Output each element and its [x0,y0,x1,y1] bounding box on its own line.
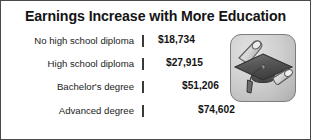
category-label: High school diploma [1,58,134,69]
graduation-cap-illustration [230,34,296,102]
category-label: Bachelor's degree [1,81,134,92]
bar-value-label: $51,206 [182,80,219,91]
bar-track [142,58,161,70]
chart-title: Earnings Increase with More Education [1,8,310,24]
bar-row: Advanced degree $74,602 [1,102,311,124]
bar-value-label: $27,915 [166,57,203,68]
category-label: Advanced degree [1,105,134,116]
bar-track [142,35,153,47]
bar [142,58,144,70]
graduation-cap-icon [230,34,296,102]
category-label: No high school diploma [1,35,134,46]
chart-figure: Earnings Increase with More Education No… [0,0,311,140]
bar-value-label: $74,602 [198,104,235,115]
bar [142,35,144,47]
bar-value-label: $18,734 [158,34,195,45]
bar-track [142,81,177,93]
bar-track [142,105,193,117]
tassel [247,80,253,93]
bar [142,81,144,93]
bar [142,105,144,117]
